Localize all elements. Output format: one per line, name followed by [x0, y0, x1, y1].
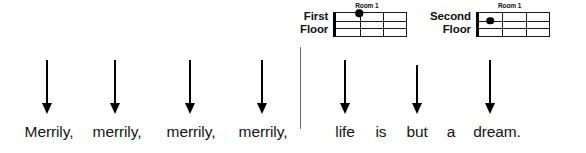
floor-diagram-2: Second FloorRoom 1 [430, 3, 550, 37]
grid-line-horizontal [479, 28, 549, 29]
arrow-shaft [261, 60, 263, 103]
room-marker-dot [486, 17, 494, 25]
lyric-word: merrily, [167, 123, 216, 141]
floor-grid [333, 12, 407, 37]
room-label: Room 1 [355, 2, 378, 9]
arrow-head [485, 103, 495, 114]
lyric-word: but [406, 123, 427, 141]
arrow-shaft [46, 60, 48, 103]
arrow-shaft [189, 60, 191, 103]
section-divider [300, 47, 301, 129]
arrow-shaft [489, 60, 491, 103]
grid-line-horizontal [336, 28, 406, 29]
lyric-word: merrily, [239, 123, 288, 141]
down-arrow [340, 60, 350, 114]
arrow-head [412, 103, 422, 114]
floor-label: First Floor [300, 3, 333, 35]
arrow-head [185, 103, 195, 114]
grid-line-horizontal [336, 21, 406, 22]
lyric-word: Merrily, [25, 123, 74, 141]
floor-grid [476, 12, 550, 37]
room-marker-dot [356, 9, 364, 17]
arrow-head [257, 103, 267, 114]
arrow-shaft [114, 60, 116, 103]
grid-line-vertical [383, 13, 384, 36]
floor-label: Second Floor [430, 3, 476, 35]
down-arrow [110, 60, 120, 114]
arrow-head [110, 103, 120, 114]
arrow-head [42, 103, 52, 114]
lyric-word: a [447, 123, 456, 141]
room-label: Room 1 [498, 2, 521, 9]
lyric-word: dream. [473, 123, 521, 141]
arrow-shaft [344, 60, 346, 103]
arrow-head [340, 103, 350, 114]
down-arrow [412, 65, 422, 114]
lyric-word: life [335, 123, 354, 141]
figure-canvas: First FloorRoom 1Second FloorRoom 1Merri… [0, 0, 586, 153]
down-arrow [42, 60, 52, 114]
down-arrow [257, 60, 267, 114]
lyric-word: is [376, 123, 387, 141]
down-arrow [485, 60, 495, 114]
grid-line-vertical [526, 13, 527, 36]
grid-wrapper: Room 1 [476, 3, 550, 37]
arrow-shaft [416, 65, 418, 103]
down-arrow [185, 60, 195, 114]
grid-line-vertical [502, 13, 503, 36]
lyric-word: merrily, [93, 123, 142, 141]
floor-diagram-1: First FloorRoom 1 [300, 3, 407, 37]
grid-wrapper: Room 1 [333, 3, 407, 37]
